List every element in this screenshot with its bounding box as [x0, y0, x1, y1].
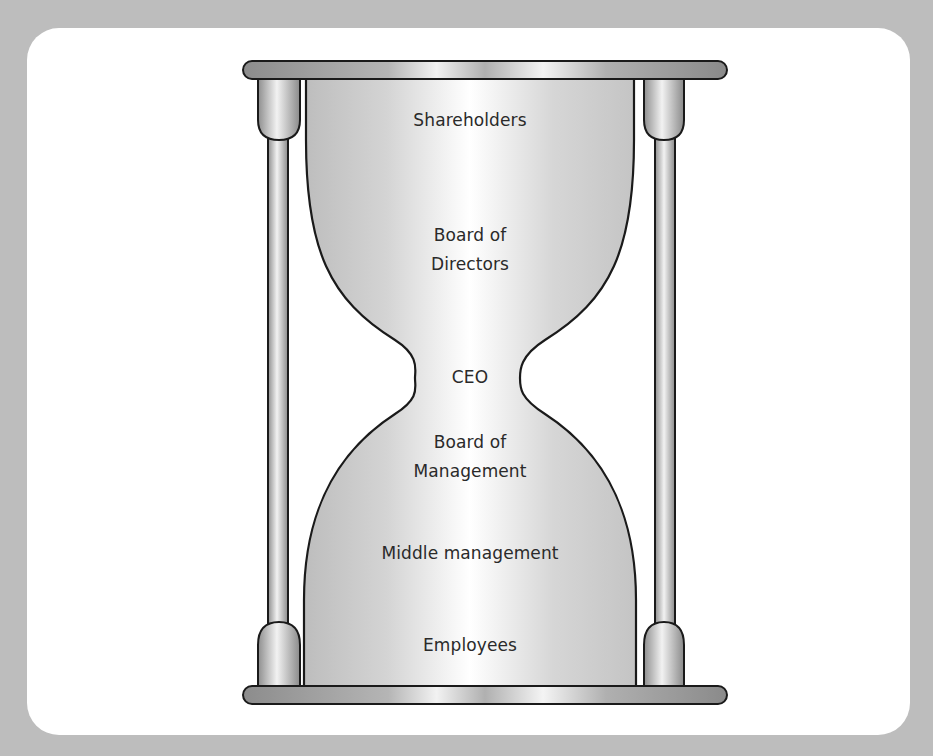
bottom-bar — [243, 686, 727, 704]
label-line: Board of — [431, 221, 509, 250]
label-shareholders: Shareholders — [413, 106, 526, 135]
label-ceo: CEO — [452, 363, 488, 392]
label-line: Middle management — [381, 539, 558, 568]
right-post — [644, 79, 684, 686]
label-line: Employees — [423, 631, 517, 660]
left-post — [258, 79, 300, 686]
label-line: Directors — [431, 250, 509, 279]
label-middle-management: Middle management — [381, 539, 558, 568]
label-line: Management — [414, 457, 527, 486]
label-board-of-directors: Board of Directors — [431, 221, 509, 279]
top-bar — [243, 61, 727, 79]
label-line: Board of — [414, 428, 527, 457]
label-employees: Employees — [423, 631, 517, 660]
label-line: Shareholders — [413, 106, 526, 135]
label-line: CEO — [452, 363, 488, 392]
label-board-of-management: Board of Management — [414, 428, 527, 486]
